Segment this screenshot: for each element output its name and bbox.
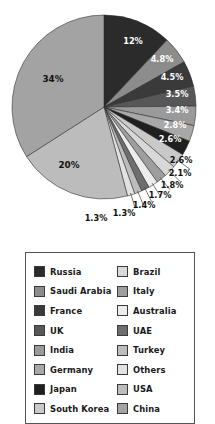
legend-color-swatch [34,384,45,395]
legend-color-swatch [34,305,45,316]
legend-item-label: South Korea [50,404,109,414]
pie-slice-label: 2.8% [164,120,187,130]
legend-item[interactable]: South Korea [34,399,117,419]
legend-item[interactable]: Italy [117,282,200,302]
legend-item-label: Others [133,365,165,375]
legend-item-label: China [133,404,160,414]
pie-slice-label: 2.6% [170,155,193,165]
pie-slice-label: 1.3% [85,213,108,223]
legend-box: RussiaBrazilSaudi ArabiaItalyFranceAustr… [25,252,195,424]
pie-slice-label: 3.4% [166,105,189,115]
legend-item[interactable]: UK [34,321,117,341]
legend-item-label: USA [133,384,153,394]
pie-slice-label: 1.4% [133,200,156,210]
legend-item[interactable]: UAE [117,321,200,341]
pie-slice-label: 3.5% [166,89,189,99]
legend-item[interactable]: Japan [34,380,117,400]
pie-slice-label: 20% [58,160,79,170]
legend-item-label: Saudi Arabia [50,286,111,296]
legend-item[interactable]: Saudi Arabia [34,282,117,302]
legend-item[interactable]: Germany [34,360,117,380]
legend-item[interactable]: China [117,399,200,419]
legend-item[interactable]: Australia [117,301,200,321]
pie-slice-label: 1.8% [161,180,184,190]
legend-item-label: UK [50,326,64,336]
legend-color-swatch [34,286,45,297]
pie-slice-label: 1.3% [113,208,136,218]
legend-color-swatch [34,403,45,414]
legend-item[interactable]: Russia [34,262,117,282]
legend-item-label: India [50,345,74,355]
legend-item-label: Russia [50,267,82,277]
legend-item-label: France [50,306,82,316]
legend-color-swatch [34,266,45,277]
legend-item[interactable]: Brazil [117,262,200,282]
legend-item[interactable]: Others [117,360,200,380]
legend-item-label: Germany [50,365,93,375]
legend-item-label: Japan [50,384,77,394]
legend-item[interactable]: Turkey [117,340,200,360]
legend-color-swatch [34,345,45,356]
pie-slice-label: 12% [123,36,143,46]
legend-grid: RussiaBrazilSaudi ArabiaItalyFranceAustr… [34,262,194,419]
legend-color-swatch [34,364,45,375]
pie-chart-area: 12%4.8%4.5%3.5%3.4%2.8%2.6%2.6%2.1%1.8%1… [0,0,215,245]
legend-item-label: Brazil [133,267,160,277]
pie-slice-label: 34% [42,74,63,84]
legend-color-swatch [117,384,128,395]
legend-color-swatch [117,266,128,277]
legend-item[interactable]: France [34,301,117,321]
pie-slice-label: 1.7% [149,190,172,200]
pie-slice-label: 2.6% [159,134,182,144]
legend-item-label: Turkey [133,345,165,355]
legend-color-swatch [117,364,128,375]
legend-color-swatch [117,345,128,356]
legend-color-swatch [34,325,45,336]
legend-item-label: Australia [133,306,177,316]
legend-item-label: Italy [133,286,155,296]
legend-item-label: UAE [133,326,152,336]
legend-color-swatch [117,305,128,316]
legend-color-swatch [117,286,128,297]
pie-slice-label: 4.5% [161,72,184,82]
legend-item[interactable]: USA [117,380,200,400]
pie-slice-label: 4.8% [151,54,174,64]
pie-chart-svg: 12%4.8%4.5%3.5%3.4%2.8%2.6%2.6%2.1%1.8%1… [0,0,215,245]
legend-color-swatch [117,403,128,414]
legend-item[interactable]: India [34,340,117,360]
pie-slice-label: 2.1% [169,168,192,178]
legend-color-swatch [117,325,128,336]
